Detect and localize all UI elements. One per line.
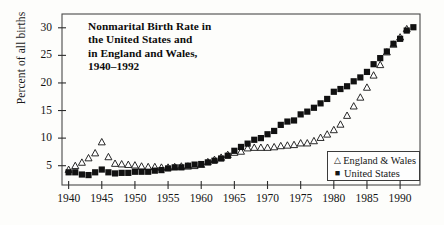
data-point-triangle bbox=[357, 94, 364, 100]
data-point-square bbox=[397, 36, 403, 42]
data-point-triangle bbox=[118, 161, 125, 167]
data-point-square bbox=[304, 109, 310, 115]
data-point-square bbox=[344, 83, 350, 89]
data-point-triangle bbox=[105, 153, 112, 159]
data-point-triangle bbox=[377, 61, 384, 67]
data-point-square bbox=[384, 48, 390, 54]
data-point-triangle bbox=[78, 159, 85, 165]
data-point-square bbox=[364, 69, 370, 75]
data-point-square bbox=[284, 118, 290, 124]
data-point-square bbox=[377, 55, 383, 61]
data-point-square bbox=[218, 155, 224, 161]
data-point-square bbox=[132, 169, 138, 175]
data-point-square bbox=[172, 164, 178, 170]
data-point-square bbox=[79, 171, 85, 177]
data-point-square bbox=[105, 169, 111, 175]
data-point-square bbox=[119, 170, 125, 176]
data-point-triangle bbox=[264, 144, 271, 150]
filled-square-icon: ■ bbox=[332, 169, 343, 178]
data-point-triangle bbox=[297, 140, 304, 146]
data-point-square bbox=[351, 78, 357, 84]
data-point-square bbox=[211, 158, 217, 164]
data-point-square bbox=[245, 141, 251, 147]
data-point-triangle bbox=[277, 142, 284, 148]
data-point-square bbox=[390, 41, 396, 47]
data-point-square bbox=[165, 165, 171, 171]
data-point-square bbox=[138, 169, 144, 175]
data-point-triangle bbox=[350, 103, 357, 109]
data-point-triangle bbox=[304, 140, 311, 146]
data-point-square bbox=[158, 167, 164, 173]
data-point-square bbox=[317, 100, 323, 106]
data-point-square bbox=[112, 170, 118, 176]
chart-title: Nonmarital Birth Rate inthe United State… bbox=[88, 20, 211, 74]
data-point-square bbox=[238, 144, 244, 150]
data-point-triangle bbox=[330, 126, 337, 132]
data-point-square bbox=[225, 153, 231, 159]
data-point-triangle bbox=[344, 112, 351, 118]
data-point-square bbox=[370, 61, 376, 67]
data-point-square bbox=[251, 137, 257, 143]
data-point-square bbox=[125, 170, 131, 176]
data-point-square bbox=[85, 172, 91, 178]
data-point-square bbox=[185, 163, 191, 169]
data-point-triangle bbox=[324, 131, 331, 137]
data-point-triangle bbox=[271, 143, 278, 149]
chart-title-line: 1940–1992 bbox=[88, 60, 211, 73]
data-point-square bbox=[298, 111, 304, 117]
data-point-triangle bbox=[112, 160, 119, 166]
open-triangle-icon: △ bbox=[332, 156, 342, 165]
data-point-triangle bbox=[138, 163, 145, 169]
legend-item: △England & Wales bbox=[332, 154, 416, 167]
data-point-square bbox=[404, 27, 410, 33]
data-point-triangle bbox=[257, 144, 264, 150]
data-point-triangle bbox=[125, 161, 132, 167]
data-point-square bbox=[205, 159, 211, 165]
chart-title-line: Nonmarital Birth Rate in bbox=[88, 20, 211, 33]
data-point-square bbox=[99, 166, 105, 172]
y-axis-tick-label: 20 bbox=[26, 76, 52, 88]
data-point-triangle bbox=[72, 162, 79, 168]
data-point-square bbox=[264, 131, 270, 137]
y-axis-tick-label: 10 bbox=[26, 131, 52, 143]
data-point-square bbox=[178, 164, 184, 170]
chart-title-line: the United States and bbox=[88, 33, 211, 46]
data-point-triangle bbox=[98, 138, 105, 144]
data-point-square bbox=[145, 169, 151, 175]
data-point-square bbox=[198, 161, 204, 167]
chart-legend: △England & Wales■United States bbox=[327, 151, 420, 181]
data-point-square bbox=[278, 122, 284, 128]
chart-figure: Percent of all births 51015202530 194019… bbox=[0, 0, 444, 225]
data-point-square bbox=[331, 89, 337, 95]
data-point-square bbox=[152, 168, 158, 174]
data-point-square bbox=[357, 74, 363, 80]
data-point-square bbox=[231, 148, 237, 154]
data-point-triangle bbox=[370, 72, 377, 78]
data-point-square bbox=[72, 169, 78, 175]
data-point-square bbox=[271, 128, 277, 134]
data-point-triangle bbox=[337, 121, 344, 127]
data-point-triangle bbox=[131, 162, 138, 168]
data-point-triangle bbox=[310, 137, 317, 143]
data-point-square bbox=[258, 135, 264, 141]
y-axis-tick-label: 30 bbox=[26, 21, 52, 33]
legend-item: ■United States bbox=[332, 167, 416, 180]
data-point-square bbox=[324, 96, 330, 102]
data-point-square bbox=[92, 169, 98, 175]
data-point-triangle bbox=[251, 144, 258, 150]
data-point-square bbox=[291, 117, 297, 123]
legend-label: United States bbox=[344, 168, 400, 179]
data-point-square bbox=[311, 105, 317, 111]
data-point-triangle bbox=[92, 150, 99, 156]
y-axis-tick-label: 5 bbox=[26, 159, 52, 171]
data-point-triangle bbox=[291, 141, 298, 147]
y-axis-tick-label: 25 bbox=[26, 48, 52, 60]
data-point-square bbox=[337, 86, 343, 92]
y-axis-tick-label: 15 bbox=[26, 104, 52, 116]
data-point-triangle bbox=[363, 84, 370, 90]
x-axis-tick-label: 1990 bbox=[378, 192, 422, 204]
data-point-square bbox=[66, 169, 72, 175]
legend-label: England & Wales bbox=[343, 155, 416, 166]
data-point-triangle bbox=[317, 134, 324, 140]
data-point-square bbox=[191, 161, 197, 167]
